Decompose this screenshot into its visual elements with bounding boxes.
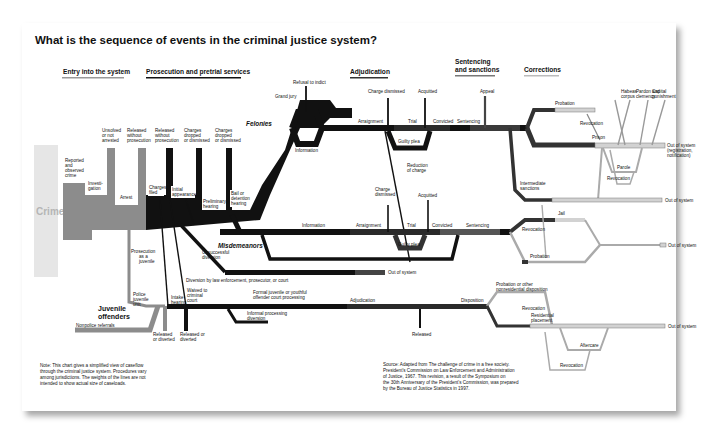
section-corrections-underline: [524, 75, 559, 77]
svg-text:corpus: corpus: [621, 94, 635, 99]
svg-text:diverted: diverted: [180, 337, 197, 342]
svg-text:Revocation: Revocation: [560, 363, 583, 368]
svg-text:dismissed: dismissed: [375, 192, 396, 197]
section-prosecution: Prosecution and pretrial services: [146, 68, 250, 76]
svg-text:intended to show actual size o: intended to show actual size of caseload…: [40, 381, 126, 386]
svg-text:Information: Information: [295, 148, 318, 153]
svg-text:or dismissed: or dismissed: [215, 138, 241, 143]
svg-text:Out of system: Out of system: [665, 198, 694, 203]
section-prosecution-underline: [146, 77, 241, 79]
svg-text:diversion: diversion: [202, 255, 221, 260]
svg-text:of charge: of charge: [407, 168, 427, 173]
svg-text:filed: filed: [149, 190, 158, 195]
svg-text:Guilty plea: Guilty plea: [398, 242, 420, 247]
svg-text:Parole: Parole: [617, 165, 631, 170]
svg-text:Released: Released: [412, 332, 432, 337]
felonies-label: Felonies: [246, 120, 272, 127]
svg-text:prosecution: prosecution: [127, 138, 151, 143]
svg-text:offender court processing: offender court processing: [253, 295, 305, 300]
section-sentencing-2: and sanctions: [455, 66, 500, 73]
svg-text:prosecution: prosecution: [155, 138, 179, 143]
section-sentencing-underline: [455, 75, 495, 77]
svg-text:or dismissed: or dismissed: [184, 138, 210, 143]
svg-text:Arraignment: Arraignment: [358, 119, 384, 124]
svg-text:diversion: diversion: [247, 316, 266, 321]
svg-text:offenders: offenders: [98, 313, 130, 320]
svg-text:appearance: appearance: [172, 192, 197, 197]
svg-text:Source: Adapted from The chall: Source: Adapted from The challenge of cr…: [383, 362, 509, 367]
section-sentencing-1: Sentencing: [455, 58, 491, 66]
svg-text:Diversion by law enforcement,: Diversion by law enforcement, prosecutor…: [186, 278, 289, 283]
svg-text:Nonpolice referrals: Nonpolice referrals: [76, 323, 115, 328]
corrections-labels: Probation Revocation Prison Habeas corpu…: [520, 89, 697, 259]
svg-text:gation: gation: [88, 186, 101, 191]
svg-text:Arraignment: Arraignment: [356, 223, 382, 228]
svg-text:Acquitted: Acquitted: [418, 193, 438, 198]
svg-text:Charge dismissed: Charge dismissed: [368, 89, 405, 94]
svg-text:Trial: Trial: [408, 119, 417, 124]
svg-text:Convicted: Convicted: [433, 119, 454, 124]
svg-text:sanctions: sanctions: [520, 186, 540, 191]
svg-text:Jail: Jail: [558, 211, 565, 216]
svg-text:hearing: hearing: [203, 204, 219, 209]
svg-text:crime: crime: [65, 173, 77, 178]
svg-text:Note: This chart gives a simpl: Note: This chart gives a simplified view…: [40, 363, 144, 368]
section-adjudication: Adjudication: [350, 68, 390, 76]
svg-text:arrested: arrested: [102, 138, 119, 143]
svg-text:Arrest: Arrest: [120, 195, 133, 200]
svg-text:Prison: Prison: [592, 135, 605, 140]
svg-text:hearing: hearing: [231, 201, 247, 206]
source-text: Source: Adapted from The challenge of cr…: [383, 362, 519, 391]
svg-text:hearing: hearing: [171, 300, 187, 305]
svg-text:unit: unit: [133, 302, 141, 307]
diagram-title: What is the sequence of events in the cr…: [35, 34, 377, 46]
svg-text:Revocation: Revocation: [580, 121, 603, 126]
section-adjudication-underline: [350, 77, 388, 79]
svg-text:Out of system: Out of system: [388, 270, 417, 275]
svg-text:through the criminal justice s: through the criminal justice system. Pro…: [40, 369, 147, 374]
svg-text:Disposition: Disposition: [461, 298, 484, 303]
svg-text:Information: Information: [302, 223, 325, 228]
svg-text:Aftercare: Aftercare: [580, 343, 599, 348]
svg-text:nonresidential disposition: nonresidential disposition: [496, 287, 548, 292]
svg-text:court: court: [187, 298, 198, 303]
svg-text:the 30th Anniversary of the Pr: the 30th Anniversary of the President's …: [383, 380, 519, 385]
svg-text:Juvenile: Juvenile: [98, 305, 126, 312]
svg-text:Revocation: Revocation: [607, 176, 630, 181]
section-entry-underline: [62, 77, 124, 79]
svg-text:Convicted: Convicted: [432, 223, 453, 228]
section-corrections: Corrections: [524, 66, 561, 73]
note-text: Note: This chart gives a simplified view…: [40, 363, 147, 386]
svg-text:juvenile: juvenile: [138, 259, 155, 264]
crime-label: Crime: [36, 206, 65, 217]
section-entry: Entry into the system: [63, 68, 130, 76]
svg-text:Probation: Probation: [555, 101, 575, 106]
svg-text:placement: placement: [531, 318, 553, 323]
svg-text:Out of system: Out of system: [668, 324, 697, 329]
svg-text:Acquitted: Acquitted: [418, 89, 438, 94]
svg-text:Guilty plea: Guilty plea: [398, 139, 420, 144]
svg-text:Probation: Probation: [530, 254, 550, 259]
svg-text:Adjudication: Adjudication: [350, 298, 375, 303]
svg-text:Trial: Trial: [407, 223, 416, 228]
svg-text:Grand jury: Grand jury: [275, 94, 297, 99]
svg-text:punishment: punishment: [652, 94, 676, 99]
svg-text:Refusal to indict: Refusal to indict: [293, 80, 326, 85]
svg-text:President's Commission on Law: President's Commission on Law Enforcemen…: [383, 368, 515, 373]
svg-text:of Justice, 1967. This revisio: of Justice, 1967. This revision, a resul…: [383, 374, 506, 379]
svg-text:Revocation: Revocation: [522, 227, 545, 232]
svg-text:Revocation: Revocation: [522, 306, 545, 311]
svg-text:notification): notification): [667, 153, 691, 158]
svg-text:or diverted: or diverted: [153, 337, 175, 342]
svg-text:Sentencing: Sentencing: [457, 119, 480, 124]
misdemeanors-label: Misdemeanors: [218, 242, 263, 249]
criminal-justice-flow-diagram: What is the sequence of events in the cr…: [0, 0, 708, 424]
svg-text:Out of system: Out of system: [668, 243, 697, 248]
svg-text:by the Bureau of Justice Stati: by the Bureau of Justice Statistics in 1…: [383, 386, 470, 391]
svg-text:Sentencing: Sentencing: [466, 223, 489, 228]
svg-text:among jurisdictions. The weigh: among jurisdictions. The weights of the …: [40, 375, 146, 380]
svg-text:Appeal: Appeal: [480, 89, 494, 94]
